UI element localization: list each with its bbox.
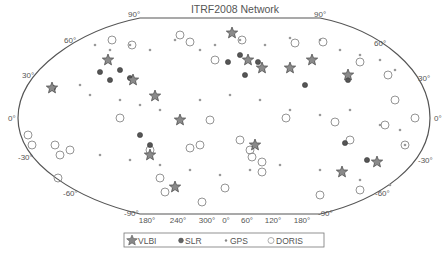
vlbi-station-marker (102, 54, 113, 65)
lat-label-right-m60: -60° (375, 189, 390, 198)
gps-station-marker (229, 94, 232, 97)
doris-station-marker (356, 58, 364, 66)
gps-station-marker (159, 109, 162, 112)
lat-label-left-0: 0° (8, 114, 16, 123)
doris-station-marker (319, 38, 327, 46)
vlbi-station-marker (149, 90, 160, 101)
lat-label-left-m30: -30° (18, 153, 33, 162)
gps-station-marker (259, 99, 262, 102)
slr-station-marker (342, 140, 347, 145)
doris-station-marker (186, 144, 194, 152)
gps-station-marker (389, 184, 392, 187)
doris-station-marker (198, 198, 206, 206)
gps-station-marker (239, 39, 242, 42)
gps-station-marker (79, 84, 82, 87)
gps-station-marker (109, 49, 112, 52)
gps-station-marker (94, 44, 97, 47)
doris-station-marker (196, 141, 204, 149)
longitude-ticks: 180° 240° 300° 0° 60° 120° 180° (139, 216, 311, 225)
vlbi-station-marker (336, 166, 347, 177)
doris-station-marker (211, 56, 219, 64)
lat-label-right-30: 30° (418, 74, 430, 83)
doris-station-marker (206, 116, 214, 124)
lat-label-left-30: 30° (22, 71, 34, 80)
doris-station-marker (381, 121, 389, 129)
gps-station-marker (279, 164, 282, 167)
lat-label-top-left: 90° (128, 10, 140, 19)
gps-station-marker (89, 94, 92, 97)
doris-station-marker (161, 188, 169, 196)
lat-label-right-0: 0° (434, 114, 442, 123)
gps-station-marker (119, 99, 122, 102)
svg-text:180°: 180° (294, 216, 311, 225)
doris-station-marker (51, 141, 59, 149)
slr-station-marker (147, 142, 152, 147)
vlbi-station-marker (169, 181, 180, 192)
gps-station-marker (199, 99, 202, 102)
slr-station-marker (364, 157, 369, 162)
doris-station-marker (258, 158, 266, 166)
doris-station-marker (116, 114, 124, 122)
slr-station-marker (117, 67, 122, 72)
gps-station-marker (189, 169, 192, 172)
lat-label-top-right: 90° (314, 10, 326, 19)
dot-icon (225, 239, 227, 241)
gps-station-marker (289, 109, 292, 112)
gps-station-marker (339, 49, 342, 52)
doris-station-marker (248, 153, 256, 161)
doris-station-marker (384, 71, 392, 79)
gps-station-marker (289, 37, 292, 40)
doris-station-marker (186, 38, 194, 46)
vlbi-stations (46, 27, 382, 192)
doris-station-marker (176, 31, 184, 39)
doris-station-marker (331, 118, 339, 126)
slr-stations (50, 52, 369, 162)
slr-station-marker (107, 77, 112, 82)
gps-station-marker (319, 169, 322, 172)
gps-station-marker (159, 164, 162, 167)
doris-station-marker (236, 136, 244, 144)
filled-circle-icon (179, 238, 184, 243)
gps-station-marker (99, 154, 102, 157)
slr-station-marker (242, 72, 247, 77)
chart-title: ITRF2008 Network (191, 3, 280, 15)
svg-text:0°: 0° (222, 216, 230, 225)
svg-text:300°: 300° (199, 216, 216, 225)
lat-label-right-m30: -30° (418, 156, 433, 165)
doris-station-marker (411, 114, 419, 122)
doris-station-marker (391, 96, 399, 104)
doris-station-marker (24, 131, 32, 139)
svg-text:SLR: SLR (185, 236, 202, 246)
doris-station-marker (108, 36, 116, 44)
lat-label-left-60: 60° (64, 36, 76, 45)
gps-station-marker (219, 174, 222, 177)
gps-station-marker (149, 49, 152, 52)
doris-station-marker (28, 141, 36, 149)
svg-text:240°: 240° (170, 216, 187, 225)
slr-station-marker (137, 132, 142, 137)
svg-text:GPS: GPS (230, 236, 248, 246)
gps-station-marker (319, 114, 322, 117)
gps-station-marker (214, 44, 217, 47)
doris-station-marker (291, 39, 299, 47)
slr-station-marker (255, 59, 260, 64)
gps-station-marker (129, 44, 132, 47)
vlbi-station-marker (46, 82, 57, 93)
doris-station-marker (56, 151, 64, 159)
svg-text:180°: 180° (139, 216, 156, 225)
vlbi-station-marker (371, 156, 382, 167)
gps-station-marker (349, 109, 352, 112)
lat-label-right-60: 60° (374, 39, 386, 48)
itrf-network-map: ITRF2008 Network 90° 90° 60° 30° 0° -30°… (0, 0, 445, 258)
doris-station-marker (282, 114, 290, 122)
gps-station-marker (174, 39, 177, 42)
doris-station-marker (356, 186, 364, 194)
lat-label-bottom-left: -90° (124, 209, 139, 218)
legend: VLBI SLR GPS DORIS (124, 233, 324, 247)
gps-station-marker (359, 179, 362, 182)
svg-text:60°: 60° (241, 216, 253, 225)
slr-station-marker (237, 52, 242, 57)
doris-station-marker (156, 174, 164, 182)
vlbi-station-marker (242, 54, 253, 65)
vlbi-station-marker (174, 114, 185, 125)
